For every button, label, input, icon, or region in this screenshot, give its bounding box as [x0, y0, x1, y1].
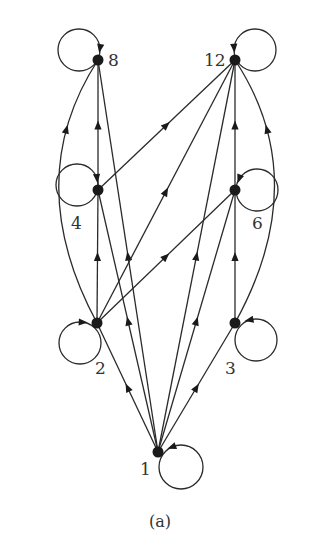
edge-3-to-6: [231, 190, 238, 323]
arrowhead-icon: [94, 121, 101, 130]
arrowhead-icon: [161, 188, 168, 198]
edge-3-to-12: [235, 60, 275, 323]
divisibility-digraph: 12346812 (a): [0, 0, 322, 548]
arrowhead-icon: [79, 318, 88, 325]
edge-1-to-4: [98, 190, 158, 452]
node-labels-layer: 12346812: [71, 50, 263, 479]
figure-caption: (a): [149, 512, 171, 531]
node-label-4: 4: [71, 213, 82, 233]
node-2: [92, 318, 103, 329]
node-12: [230, 55, 241, 66]
node-8: [93, 55, 104, 66]
node-3: [230, 318, 241, 329]
arrowhead-icon: [62, 125, 69, 135]
arrowhead-icon: [192, 317, 199, 327]
edge-1-to-6: [158, 190, 235, 452]
arrowhead-icon: [192, 252, 199, 262]
arrowhead-icon: [93, 174, 100, 183]
arrowhead-icon: [167, 442, 177, 449]
edge-4-to-12: [98, 60, 235, 190]
arrowhead-icon: [97, 44, 104, 53]
arrowhead-icon: [126, 383, 133, 393]
self-loop-3: [235, 316, 277, 361]
edge-1-to-2: [97, 323, 158, 452]
arrowhead-icon: [125, 252, 132, 261]
edge-2-to-8: [59, 60, 98, 323]
edge-1-to-3: [158, 323, 235, 452]
edge-2-to-4: [94, 190, 101, 323]
edge-6-to-12: [231, 60, 238, 190]
node-6: [230, 185, 241, 196]
arrowhead-icon: [231, 121, 238, 130]
node-label-3: 3: [225, 358, 236, 378]
self-loop-4: [56, 164, 100, 206]
node-label-1: 1: [140, 459, 151, 479]
node-label-12: 12: [204, 50, 226, 70]
self-loop-1: [159, 442, 203, 489]
arrowhead-icon: [94, 252, 101, 261]
node-label-6: 6: [252, 213, 263, 233]
arrowhead-icon: [231, 252, 238, 261]
edge-2-to-6: [97, 190, 235, 323]
self-loop-6: [236, 169, 278, 211]
arrowhead-icon: [265, 125, 272, 135]
edge-1-to-8: [98, 60, 158, 452]
arrowhead-icon: [125, 317, 132, 327]
edge-1-to-12: [158, 60, 235, 452]
node-4: [93, 185, 104, 196]
arrowhead-icon: [191, 384, 199, 394]
node-label-2: 2: [95, 358, 106, 378]
edges-layer: [59, 60, 275, 452]
node-1: [153, 447, 164, 458]
node-label-8: 8: [108, 50, 119, 70]
